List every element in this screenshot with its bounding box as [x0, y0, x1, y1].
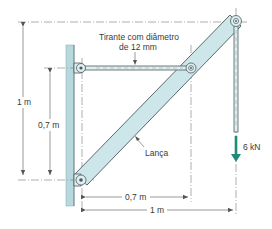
dimension-horizontal-tie-label: 0,7 m — [124, 193, 147, 202]
leader-tie-rod — [133, 52, 137, 65]
boom-label: Lança — [144, 149, 169, 158]
pin-top — [231, 16, 242, 27]
pin-wall-upper — [74, 63, 86, 73]
leader-boom — [135, 136, 144, 147]
pin-wall-lower — [74, 174, 86, 186]
dimension-vertical-total-label: 1 m — [16, 98, 32, 107]
load-arrow-icon — [231, 136, 241, 162]
pin-tie-boom — [186, 63, 196, 73]
tie-rod-label-line1: Tirante com diâmetro — [99, 33, 177, 42]
tie-rod — [82, 66, 191, 70]
wall — [66, 45, 74, 206]
dimension-horizontal-total-label: 1 m — [149, 206, 165, 215]
tie-rod-label-line2: de 12 mm — [99, 43, 177, 52]
dimension-vertical-tie-label: 0,7 m — [37, 121, 60, 130]
load-label: 6 kN — [242, 143, 261, 152]
hanger-rod — [234, 22, 238, 132]
tie-rod-label: Tirante com diâmetro de 12 mm — [98, 33, 178, 51]
